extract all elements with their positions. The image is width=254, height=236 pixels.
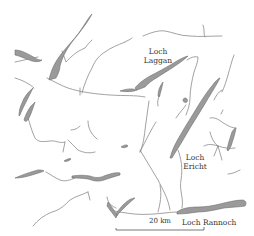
loch-tiny-west: [64, 159, 71, 162]
loch-tiny-mid: [121, 145, 128, 148]
loch-west-long: [15, 170, 44, 178]
loch-southwest-arm: [107, 202, 117, 218]
loch-small-east: [158, 82, 163, 97]
loch-east-small: [227, 128, 236, 151]
loch-small-round: [183, 98, 187, 102]
loch-central-long: [72, 173, 120, 181]
loch-rannoch: [177, 200, 246, 214]
label-loch-ericht-line2: Ericht: [180, 163, 210, 172]
label-loch-laggan: Loch Laggan: [140, 48, 176, 65]
rivers: [15, 25, 240, 226]
lochs: [15, 14, 246, 218]
scale-bar-label: 20 km: [149, 217, 171, 225]
map: Loch Laggan Loch Ericht Loch Rannoch 20 …: [0, 0, 254, 236]
label-loch-laggan-line2: Laggan: [140, 57, 176, 66]
map-drawing: [0, 0, 254, 236]
loch-west-mid: [24, 102, 35, 121]
loch-northwest: [15, 50, 42, 62]
label-loch-rannoch: Loch Rannoch: [182, 219, 236, 228]
label-loch-ericht: Loch Ericht: [180, 154, 210, 171]
loch-southwest: [115, 198, 135, 216]
loch-laggan-west: [120, 89, 137, 92]
